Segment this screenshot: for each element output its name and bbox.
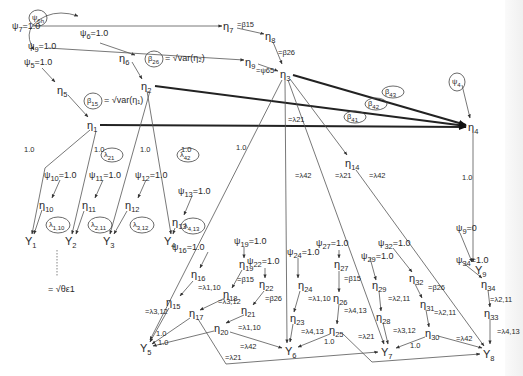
edge-label-lambda21-9: =λ21 [288, 115, 304, 124]
node-eta12: η12 [125, 199, 139, 214]
edge-psi9-eta9 [48, 48, 244, 60]
node-eta4: η4 [468, 121, 478, 136]
node-eta33: η33 [484, 307, 498, 322]
edge-eta6-eta2 [132, 62, 142, 79]
edge-label-beta15-24: =β15 [344, 274, 361, 283]
edge-eta22-eta21 [253, 291, 264, 305]
edge-eta12-y3 [114, 211, 127, 234]
edge-label-one-4: 1.0 [236, 143, 246, 152]
label-psi9b: ψ9=0 [456, 223, 477, 236]
edge-label-lambda413-26: =λ4,13 [301, 327, 324, 336]
edge-label-beta15-6: =β15 [237, 20, 254, 29]
node-eta6: η6 [119, 52, 129, 67]
edge-label-lambda42-34: =λ42 [456, 334, 472, 343]
edge-eta3-y6 [285, 80, 287, 343]
edge-label-lambda312-17: =λ3,12 [218, 297, 241, 306]
edge-eta1-eta4 [100, 125, 466, 127]
edge-label-one-1: 1.0 [94, 145, 104, 154]
labels-layer: η1η2η3η4η5η6η7η8η9η10η11η12η13η14η15η16η… [12, 13, 520, 363]
label-psi12: ψ12=1.0 [135, 170, 168, 183]
label-psi13: ψ13=1.0 [178, 186, 211, 199]
param-beta43: β43 [385, 87, 397, 98]
edge-psi32-eta32 [393, 248, 412, 272]
edge-eta2-y4 [147, 91, 171, 234]
edge-label-lambda42-12: =λ42 [369, 171, 385, 180]
node-eta32: η32 [409, 272, 423, 287]
edge-label-lambda312-30: =λ3,12 [393, 326, 416, 335]
node-eta22: η22 [259, 278, 273, 293]
edge-eta24-eta23 [294, 291, 300, 312]
node-eta26: η26 [333, 292, 347, 307]
label-psi24: ψ24=1.0 [287, 247, 320, 260]
curve-psi6h-psi6 [46, 13, 78, 16]
path-diagram: η1η2η3η4η5η6η7η8η9η10η11η12η13η14η15η16η… [0, 0, 523, 376]
node-eta14: η14 [345, 157, 359, 172]
edge-label-lambda211-29: =λ2,11 [388, 294, 410, 303]
param-beta15: β15 [87, 96, 99, 107]
node-eta16: η16 [191, 268, 205, 283]
label-psi27: ψ27=1.0 [316, 238, 349, 251]
node-y8: Y8 [483, 348, 495, 363]
edge-label-lambda21-22: =λ21 [225, 353, 241, 362]
edge-eta16-eta15 [180, 281, 193, 296]
edge-label-lambda110-23: =λ1,10 [308, 294, 331, 303]
node-eta5: η5 [57, 84, 67, 99]
node-eta20: η20 [214, 322, 228, 337]
node-eta27: η27 [334, 258, 348, 273]
edge-label-one-2: 1.0 [140, 145, 150, 154]
edge-label-beta26-31: =β26 [428, 283, 445, 292]
edge-eta29-eta28 [379, 291, 381, 311]
equation-beta15: = √var(η₁) [104, 95, 143, 105]
node-eta7: η7 [223, 20, 233, 35]
node-eta8: η8 [265, 30, 275, 45]
edge-label-psi65-8: =ψ65 [256, 66, 274, 75]
edge-label-one-20: 1.0 [158, 338, 168, 347]
edge-label-lambda211-35: =λ2,11 [490, 295, 512, 304]
edge-label-beta15-14: =β15 [237, 275, 254, 284]
edge-eta13-y4 [173, 228, 175, 234]
edge-label-lambda21-11: =λ21 [335, 171, 351, 180]
edge-label-one-27: 1.0 [324, 337, 334, 346]
edge-eta2-y3 [110, 91, 150, 234]
node-eta31: η31 [420, 298, 434, 313]
edge-psi16-eta16 [200, 252, 208, 268]
edge-eta23-y6 [290, 324, 293, 342]
edge-eta21-eta20 [226, 315, 244, 323]
edge-eta10-y1 [34, 210, 42, 234]
param-beta42: β42 [368, 99, 380, 110]
node-eta28: η28 [376, 311, 390, 326]
edge-label-lambda413-36: =λ4,13 [497, 327, 520, 336]
label-psi7: ψ7=1.0 [12, 21, 40, 34]
equation-beta26: = √var(η₂) [165, 53, 205, 63]
param-beta41: β41 [347, 112, 359, 123]
node-eta30: η30 [425, 327, 439, 342]
edge-eta5-eta1 [68, 95, 88, 117]
param-psi4: ψ4 [452, 77, 461, 88]
node-eta34: η34 [481, 278, 495, 293]
label-psi10: ψ10=1.0 [44, 170, 77, 183]
node-eta2: η2 [141, 80, 151, 95]
edge-label-lambda110-13: =λ1,10 [198, 283, 221, 292]
edge-label-lambda110-18: =λ1,10 [238, 323, 261, 332]
edge-eta28-y7 [383, 323, 388, 344]
param-lambda21: λ21 [104, 150, 115, 161]
edges-layer [29, 10, 490, 364]
node-eta9: η9 [245, 56, 255, 71]
edge-eta26-eta25 [337, 304, 339, 324]
node-y5: Y5 [140, 342, 152, 357]
param-lambda110: λ1,10 [49, 220, 65, 231]
edge-psi4-eta4 [462, 85, 470, 118]
label-psi11: ψ11=1.0 [89, 170, 121, 183]
edge-label-lambda42-21: =λ42 [240, 342, 256, 351]
param-lambda211: λ2,11 [91, 220, 107, 231]
node-eta29: η29 [372, 279, 386, 294]
label-psi34: ψ34=1.0 [456, 255, 489, 268]
label-psi16: ψ16=1.0 [172, 242, 205, 255]
edge-label-lambda211-32: =λ2,11 [434, 308, 456, 317]
edge-label-one-5: 1.0 [462, 173, 472, 182]
label-psi9: ψ9=1.0 [28, 41, 56, 54]
param-lambda312: λ3,12 [133, 220, 149, 231]
node-y3: Y3 [103, 235, 115, 250]
node-eta23: η23 [290, 312, 304, 327]
equation-theta: = √θε1 [48, 284, 75, 294]
